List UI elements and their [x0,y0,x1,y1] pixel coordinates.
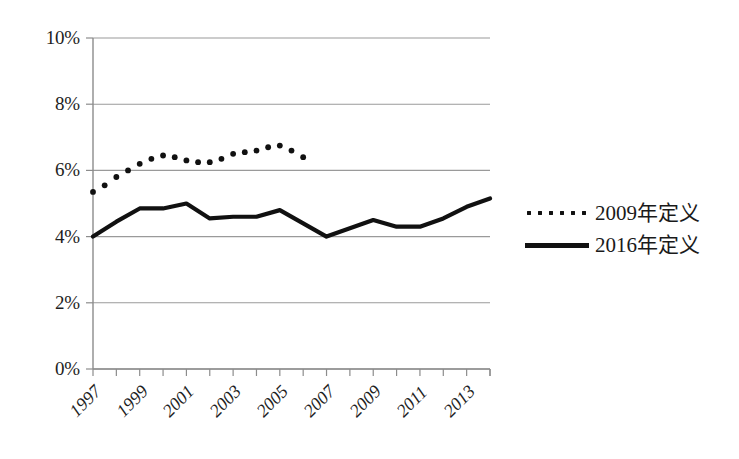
data-point [242,149,248,155]
data-point [184,158,190,164]
data-point [265,144,271,150]
y-axis-tick-label: 8% [18,94,80,113]
legend-item-2016[interactable]: 2016年定义 [524,230,700,260]
y-axis-tick-label: 2% [18,293,80,312]
x-axis-tick-label: 2007 [300,382,338,420]
data-point [90,189,96,195]
x-axis-tick-label: 2003 [206,382,244,420]
data-point [289,148,295,154]
plot-svg [93,38,490,369]
dotted-line-marker-icon [524,205,592,221]
x-axis-label-group: 199719992001200320052007200920112013 [93,372,513,452]
data-point [125,168,131,174]
data-point [300,154,306,160]
y-axis-tick-label: 10% [18,28,80,47]
data-point [148,156,154,162]
y-axis-label-group: 10%8%6%4%2%0% [16,0,80,459]
data-point [230,151,236,157]
legend-item-2009[interactable]: 2009年定义 [524,198,700,228]
data-point [195,159,201,165]
y-axis-tick-label: 4% [18,227,80,246]
data-point [102,182,108,188]
series-2 [93,199,490,237]
x-axis-tick-label: 2013 [440,382,478,420]
data-point [254,148,260,154]
series-line [93,199,490,237]
y-axis-tick-label: 6% [18,160,80,179]
series-1 [90,143,306,195]
y-axis-tick-label: 0% [18,359,80,378]
x-axis-tick-label: 2009 [346,382,384,420]
data-point [160,153,166,159]
data-point [207,159,213,165]
x-axis-tick-label: 1999 [113,382,151,420]
data-point [277,143,283,149]
solid-line-marker-icon [524,237,592,253]
data-point [172,154,178,160]
x-axis-tick-label: 2005 [253,382,291,420]
x-axis-tick-label: 2011 [393,383,430,420]
legend-label-2016: 2016年定义 [592,235,700,256]
line-chart-figure: 10%8%6%4%2%0% 19971999200120032005200720… [0,0,739,459]
chart-legend: 2009年定义 2016年定义 [524,198,724,270]
plot-area [93,38,490,369]
data-point [219,156,225,162]
data-point [113,174,119,180]
x-axis-tick-label: 2001 [160,382,198,420]
legend-label-2009: 2009年定义 [592,203,700,224]
data-point [137,161,143,167]
